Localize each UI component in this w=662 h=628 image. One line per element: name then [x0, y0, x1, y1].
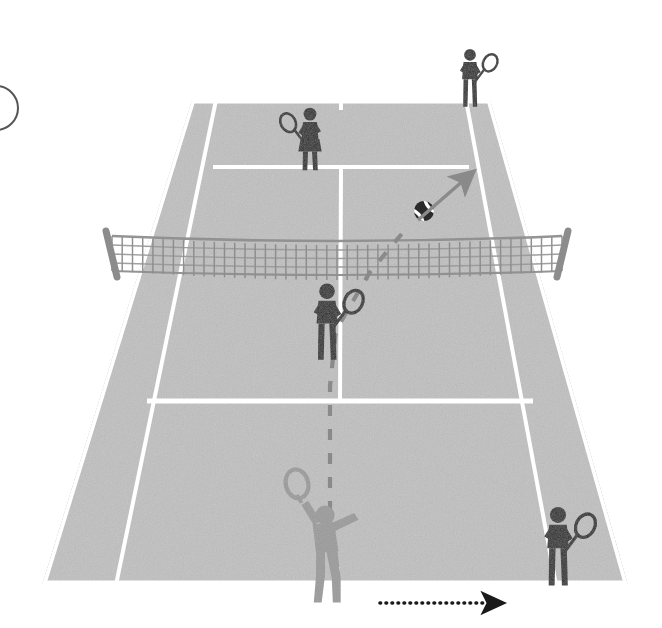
player-leg — [318, 324, 325, 360]
player-figure — [460, 49, 501, 107]
line-center-service — [340, 167, 341, 401]
player-leg — [463, 79, 468, 106]
court-illustration — [0, 0, 662, 628]
panel-arc-marker — [0, 86, 18, 130]
player-head — [464, 49, 476, 61]
player-leg — [549, 548, 556, 585]
racket-icon — [476, 52, 501, 81]
player-head — [304, 108, 317, 121]
tennis-court-diagram — [0, 0, 662, 628]
player-head — [319, 284, 335, 300]
player-head — [550, 507, 566, 523]
player-far-right-receiver — [460, 49, 501, 107]
player-leg — [303, 152, 308, 171]
